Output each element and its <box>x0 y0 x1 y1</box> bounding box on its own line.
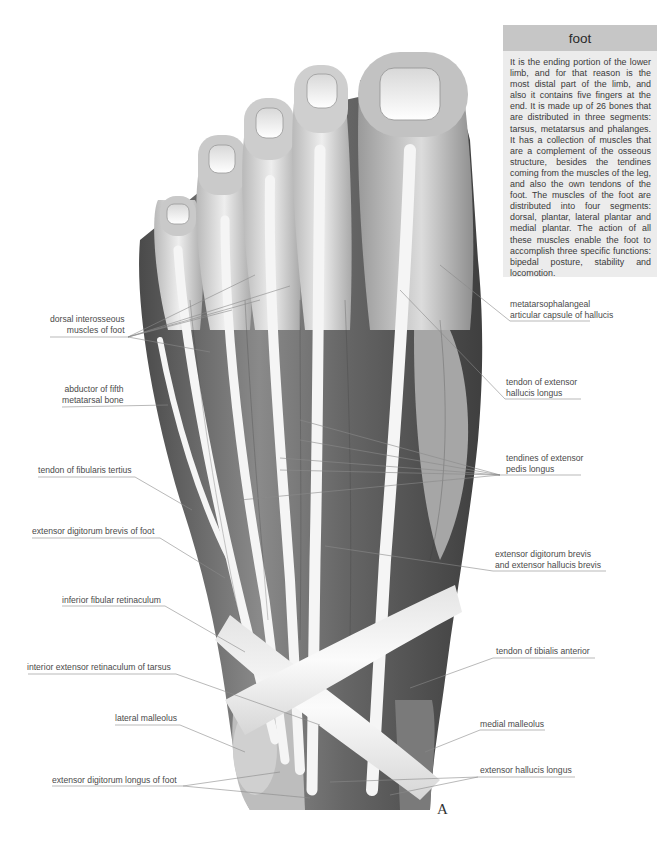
label-metatarsophalangeal-capsule: metatarsophalangeal articular capsule of… <box>510 299 613 320</box>
anatomy-plate: foot It is the ending portion of the low… <box>0 0 657 858</box>
label-interior-extensor-retinaculum: interior extensor retinaculum of tarsus <box>27 662 171 673</box>
label-extensor-digitorum-brevis-foot: extensor digitorum brevis of foot <box>32 526 154 537</box>
label-tendon-extensor-hallucis-longus: tendon of extensor hallucis longus <box>506 377 577 398</box>
info-box-body: It is the ending portion of the lower li… <box>503 51 657 279</box>
label-inferior-fibular-retinaculum: inferior fibular retinaculum <box>62 595 161 606</box>
label-abductor-fifth-metatarsal: abductor of fifth metatarsal bone <box>62 384 124 405</box>
label-tendon-fibularis-tertius: tendon of fibularis tertius <box>38 465 132 476</box>
info-box: foot It is the ending portion of the low… <box>503 25 657 277</box>
info-box-title: foot <box>503 25 657 51</box>
label-medial-malleolus: medial malleolus <box>480 719 544 730</box>
label-tendines-extensor-pedis-longus: tendines of extensor pedis longus <box>506 453 583 474</box>
label-extensor-digitorum-longus: extensor digitorum longus of foot <box>52 775 177 786</box>
label-extensor-digitorum-hallucis-brevis: extensor digitorum brevis and extensor h… <box>495 549 601 570</box>
plate-letter: A <box>437 801 448 818</box>
label-dorsal-interosseous: dorsal interosseous muscles of foot <box>50 314 125 335</box>
label-extensor-hallucis-longus: extensor hallucis longus <box>480 765 572 776</box>
label-lateral-malleolus: lateral malleolus <box>115 713 177 724</box>
label-tendon-tibialis-anterior: tendon of tibialis anterior <box>496 646 590 657</box>
